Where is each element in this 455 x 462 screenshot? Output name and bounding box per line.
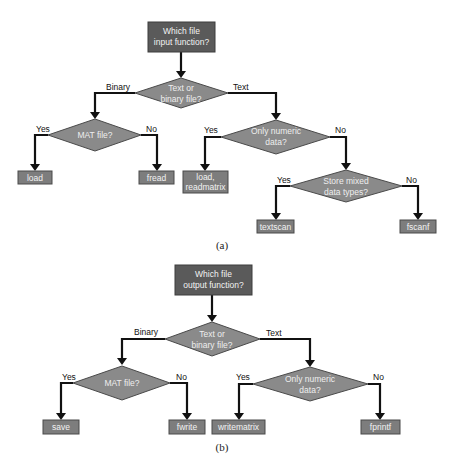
arrowhead-icon [30, 164, 40, 171]
start-box-text-line2: output function? [183, 280, 244, 290]
arrowhead-icon [117, 358, 127, 365]
label-yes: Yes [236, 372, 250, 382]
arrowhead-icon [200, 164, 210, 171]
result-fscanf: fscanf [400, 220, 436, 233]
arrow-numeric-no [330, 137, 346, 166]
result-save: save [43, 420, 79, 434]
decision-text-line1: Text or [168, 83, 194, 93]
arrow-numeric-no [368, 384, 380, 416]
arrowhead-icon [305, 360, 315, 367]
arrow-mat-yes [61, 383, 73, 416]
arrowhead-icon [413, 213, 423, 220]
diagram-b-arrows [56, 295, 385, 420]
decision-numeric-line2: data? [265, 137, 287, 147]
arrowhead-icon [341, 163, 351, 170]
result-load: load [18, 171, 52, 184]
arrowhead-icon [182, 413, 192, 420]
arrowhead-icon [375, 413, 385, 420]
label-no: No [406, 175, 417, 185]
start-box-text-line2: input function? [154, 37, 210, 47]
decision-mat-text: MAT file? [104, 378, 139, 388]
start-box-text-line1: Which file [163, 26, 200, 36]
result-fread: fread [139, 171, 174, 184]
arrow-binary [122, 339, 165, 361]
arrowhead-icon [271, 213, 281, 220]
decision-mixed-line2: data types? [324, 187, 368, 197]
label-yes: Yes [36, 124, 50, 134]
decision-mat-text: MAT file? [77, 130, 112, 140]
result-save-text: save [52, 422, 70, 432]
label-yes: Yes [277, 175, 291, 185]
result-load-text: load [27, 173, 43, 183]
decision-numeric-line1: Only numeric [251, 126, 302, 136]
arrow-mixed-no [402, 186, 418, 216]
caption-b: (b) [216, 441, 229, 454]
arrowhead-icon [271, 113, 281, 120]
arrow-mixed-yes [276, 186, 290, 216]
arrowhead-icon [234, 413, 244, 420]
result-load-readmatrix: load, readmatrix [183, 171, 228, 193]
decision-only-numeric: Only numeric data? [221, 120, 330, 154]
label-no: No [146, 124, 157, 134]
arrowhead-icon [56, 413, 66, 420]
arrowhead-icon [207, 315, 217, 322]
start-box-text-line1: Which file [195, 269, 232, 279]
decision-only-numeric: Only numeric data? [253, 367, 368, 401]
arrow-text [260, 339, 310, 363]
decision-text-or-binary: Text or binary file? [135, 78, 228, 108]
arrow-text [228, 93, 276, 116]
result-fwrite: fwrite [169, 420, 205, 434]
label-no: No [373, 372, 384, 382]
result-load-readmatrix-line2: readmatrix [185, 182, 226, 192]
diagram-b: Which file output function? Text or bina… [43, 265, 400, 454]
result-fwrite-text: fwrite [177, 422, 198, 432]
label-no: No [335, 125, 346, 135]
label-binary: Binary [106, 82, 131, 92]
arrow-mat-yes [35, 135, 48, 167]
arrow-mat-no [141, 135, 157, 167]
decision-text-line2: binary file? [191, 340, 232, 350]
decision-mat-file: MAT file? [73, 366, 170, 400]
result-writematrix: writematrix [212, 420, 265, 434]
result-load-readmatrix-line1: load, [196, 172, 214, 182]
arrow-numeric-yes [239, 384, 253, 416]
decision-mat-file: MAT file? [48, 119, 141, 151]
arrowhead-icon [90, 112, 100, 119]
arrow-mat-no [170, 383, 187, 416]
label-text: Text [266, 328, 282, 338]
label-yes: Yes [62, 372, 76, 382]
result-fprintf: fprintf [361, 420, 400, 434]
start-box-input: Which file input function? [148, 22, 215, 52]
decision-text-or-binary: Text or binary file? [165, 322, 260, 356]
result-fread-text: fread [147, 173, 167, 183]
decision-mixed-line1: Store mixed [323, 176, 369, 186]
result-writematrix-text: writematrix [217, 422, 260, 432]
label-no: No [176, 372, 187, 382]
diagram-a: Which file input function? Text or binar… [18, 22, 436, 252]
decision-numeric-line1: Only numeric [285, 374, 336, 384]
arrowhead-icon [152, 164, 162, 171]
decision-store-mixed: Store mixed data types? [290, 170, 402, 202]
decision-numeric-line2: data? [299, 385, 321, 395]
result-fscanf-text: fscanf [407, 222, 430, 232]
arrowhead-icon [176, 71, 186, 78]
label-text: Text [233, 82, 249, 92]
label-yes: Yes [204, 125, 218, 135]
label-binary: Binary [134, 327, 159, 337]
arrow-binary [95, 93, 135, 115]
start-box-output: Which file output function? [175, 265, 252, 295]
result-textscan-text: textscan [260, 222, 292, 232]
result-fprintf-text: fprintf [370, 422, 392, 432]
flowchart-canvas: Which file input function? Text or binar… [0, 0, 455, 462]
decision-text-line1: Text or [199, 329, 225, 339]
arrow-numeric-yes [205, 137, 221, 167]
decision-text-line2: binary file? [160, 94, 201, 104]
result-textscan: textscan [257, 220, 294, 233]
caption-a: (a) [216, 239, 229, 252]
